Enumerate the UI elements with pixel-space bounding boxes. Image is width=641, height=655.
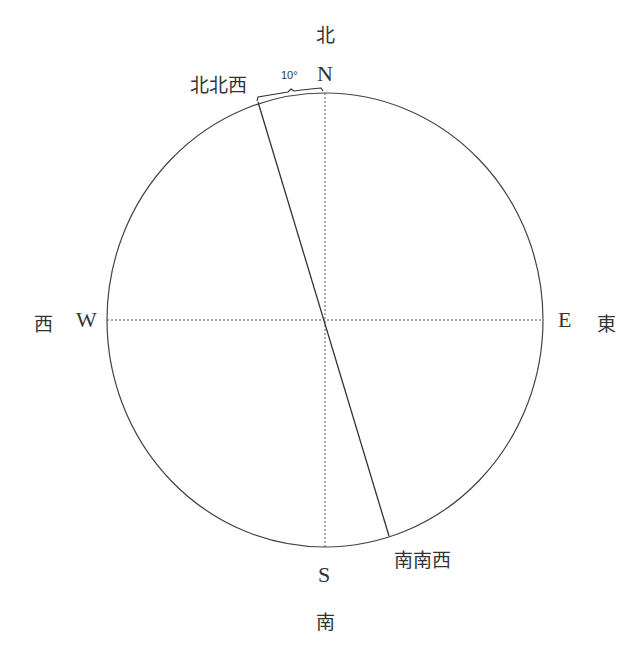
south-label: S [318, 562, 330, 588]
nnw-ssw-line [258, 102, 389, 536]
ssw-label: 南南西 [394, 545, 451, 572]
west-kanji-label: 西 [34, 309, 53, 336]
north-label: N [317, 61, 333, 87]
angle-label: 10° [281, 69, 298, 81]
nnw-label: 北北西 [190, 70, 247, 97]
south-kanji-label: 南 [316, 607, 335, 634]
angle-brace [257, 88, 323, 101]
north-kanji-label: 北 [316, 20, 335, 47]
west-label: W [76, 307, 97, 333]
east-label: E [558, 307, 571, 333]
compass-diagram: 10° 北 N 北北西 西 W E 東 S 南 南南西 [0, 0, 641, 655]
east-kanji-label: 東 [597, 309, 616, 336]
